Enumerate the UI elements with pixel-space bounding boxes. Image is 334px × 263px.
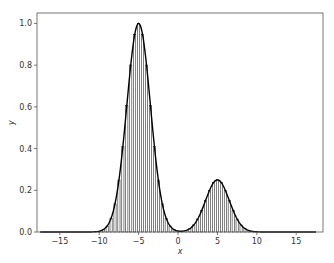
bar	[208, 190, 210, 232]
bar	[126, 105, 128, 232]
x-tick-label: 0	[175, 237, 180, 246]
bar	[216, 180, 218, 232]
chart: −15−10−5051015 0.00.20.40.60.81.0 x y	[0, 0, 334, 263]
bar	[145, 65, 147, 232]
x-tick-label: −10	[91, 237, 108, 246]
bar	[134, 35, 136, 232]
bar	[130, 65, 132, 232]
x-tick-label: 15	[291, 237, 301, 246]
y-tick-label: 0.4	[19, 145, 32, 154]
x-tick-label: 10	[252, 237, 262, 246]
y-tick-label: 0.2	[19, 186, 32, 195]
x-tick-label: −15	[51, 237, 68, 246]
plot-frame	[37, 13, 323, 232]
x-tick-label: 5	[215, 237, 220, 246]
y-tick-label: 1.0	[19, 19, 32, 28]
bar	[220, 183, 222, 232]
bar	[228, 200, 230, 232]
bar	[212, 183, 214, 232]
y-tick-label: 0.0	[19, 228, 32, 237]
histogram-bars	[98, 23, 254, 232]
y-tick-label: 0.6	[19, 103, 32, 112]
bar	[141, 35, 143, 232]
y-tick-label: 0.8	[19, 61, 32, 70]
bar	[224, 190, 226, 232]
bar	[138, 23, 140, 232]
bar	[149, 105, 151, 232]
x-tick-label: −5	[133, 237, 145, 246]
y-axis-label: y	[7, 120, 16, 126]
x-axis-ticks: −15−10−5051015	[51, 232, 301, 246]
density-curve	[40, 23, 316, 232]
y-axis-ticks: 0.00.20.40.60.81.0	[19, 19, 37, 237]
bar	[205, 200, 207, 232]
x-axis-label: x	[177, 247, 183, 256]
